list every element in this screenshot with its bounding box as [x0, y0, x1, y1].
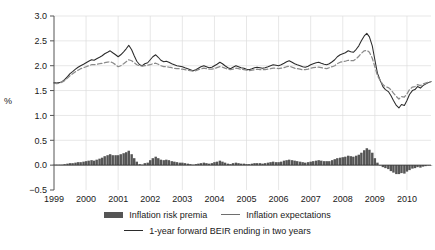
bar	[403, 165, 405, 173]
bar	[272, 162, 274, 165]
bar	[344, 157, 346, 165]
bar	[95, 160, 97, 165]
bar	[390, 165, 392, 171]
bar	[283, 161, 285, 165]
bar	[221, 162, 223, 165]
legend-label-inflation-expectations: Inflation expectations	[246, 210, 331, 220]
bar	[414, 165, 416, 168]
bar	[328, 161, 330, 165]
bar	[117, 155, 119, 165]
bar	[408, 165, 410, 170]
legend-row-2: 1-year forward BEIR ending in two years	[0, 223, 435, 239]
x-axis-tick-label: 2002	[140, 194, 160, 204]
bar	[219, 161, 221, 165]
bar	[355, 156, 357, 165]
y-axis-tick-label: 1.5	[34, 86, 47, 96]
bar	[173, 162, 175, 165]
bar	[93, 161, 95, 165]
bar	[154, 157, 156, 165]
bar	[216, 162, 218, 165]
bar	[285, 160, 287, 165]
bar	[120, 154, 122, 165]
bar	[291, 160, 293, 165]
bar	[101, 158, 103, 165]
bar	[326, 161, 328, 165]
bar	[336, 158, 338, 165]
bar	[171, 161, 173, 165]
legend-label-beir: 1-year forward BEIR ending in two years	[149, 226, 311, 236]
bar	[152, 158, 154, 165]
bar	[371, 153, 373, 165]
x-axis-tick-label: 2000	[76, 194, 96, 204]
y-axis-tick-label: 0.0	[34, 160, 47, 170]
bar	[358, 155, 360, 165]
bar	[392, 165, 394, 172]
x-axis-tick-label: 1999	[44, 194, 64, 204]
bar	[309, 162, 311, 165]
bar	[384, 165, 386, 168]
y-axis-tick-label: 1.0	[34, 111, 47, 121]
y-axis-tick-label: 0.5	[34, 136, 47, 146]
bar	[400, 165, 402, 173]
x-axis-tick-label: 2010	[397, 194, 417, 204]
y-axis-tick-label: 3.0	[34, 11, 47, 21]
bar	[176, 162, 178, 165]
bar	[288, 160, 290, 165]
bar	[293, 161, 295, 165]
x-axis-tick-label: 2008	[333, 194, 353, 204]
x-axis-tick-label: 2003	[172, 194, 192, 204]
chart-container: −0.50.00.51.01.52.02.53.0199920002001200…	[0, 0, 435, 250]
bar	[342, 157, 344, 165]
x-axis-tick-label: 2005	[236, 194, 256, 204]
bar	[160, 160, 162, 165]
bar	[109, 154, 111, 165]
bar	[352, 157, 354, 165]
bar	[320, 161, 322, 165]
y-axis-tick-label: 2.0	[34, 61, 47, 71]
bar	[307, 162, 309, 165]
bar	[90, 160, 92, 165]
bar	[130, 154, 132, 165]
bar	[315, 161, 317, 165]
chart-legend: Inflation risk premia Inflation expectat…	[0, 207, 435, 239]
bar	[213, 162, 215, 165]
bar	[125, 152, 127, 165]
bar	[133, 158, 135, 165]
bar	[269, 162, 271, 165]
bar	[360, 153, 362, 165]
bar	[149, 160, 151, 165]
bar	[98, 159, 100, 165]
legend-item-inflation-expectations[interactable]: Inflation expectations	[221, 210, 331, 220]
bar	[334, 159, 336, 165]
bar	[301, 162, 303, 165]
bar	[363, 150, 365, 165]
bar	[347, 156, 349, 165]
bar	[277, 162, 279, 165]
legend-item-beir[interactable]: 1-year forward BEIR ending in two years	[124, 226, 311, 236]
bar	[157, 158, 159, 165]
bar	[168, 160, 170, 165]
legend-item-inflation-risk-premia[interactable]: Inflation risk premia	[104, 210, 207, 220]
bar	[106, 155, 108, 165]
bar	[387, 165, 389, 169]
x-axis-tick-label: 2004	[204, 194, 224, 204]
bar	[323, 161, 325, 165]
bar	[85, 161, 87, 165]
bar	[339, 158, 341, 165]
bar	[122, 153, 124, 165]
bar	[111, 155, 113, 165]
x-axis-tick-label: 2007	[301, 194, 321, 204]
bar	[82, 162, 84, 165]
bar	[350, 156, 352, 165]
bar	[317, 160, 319, 165]
bar	[395, 165, 397, 174]
bar	[366, 148, 368, 165]
y-axis-tick-label: 2.5	[34, 36, 47, 46]
bar	[368, 150, 370, 165]
bar	[374, 158, 376, 165]
bar	[406, 165, 408, 171]
y-axis-title: %	[4, 96, 12, 106]
x-axis-tick-label: 2009	[365, 194, 385, 204]
bar	[275, 162, 277, 165]
legend-row-1: Inflation risk premia Inflation expectat…	[0, 207, 435, 223]
